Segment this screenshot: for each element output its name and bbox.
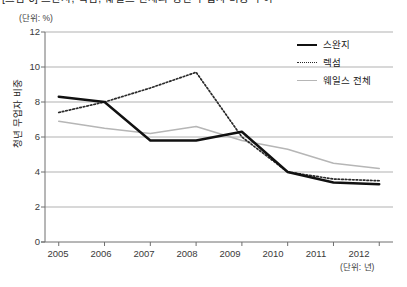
y-tick-6: 6 — [14, 132, 40, 142]
figure-root: [그림 3] 스완지, 렉섬, 웨일스 전체의 청년 무업자 비중 추이 (단위… — [0, 0, 407, 287]
x-tick-2006: 2006 — [81, 249, 121, 259]
x-tick-2010: 2010 — [253, 249, 293, 259]
x-tick-2011: 2011 — [296, 249, 336, 259]
legend-line-icon-swansea — [297, 39, 317, 49]
y-axis-title: 청년 무업자 비중 — [12, 68, 23, 160]
x-tick-2008: 2008 — [167, 249, 207, 259]
x-tick-2007: 2007 — [124, 249, 164, 259]
y-tick-10: 10 — [14, 62, 40, 72]
y-tick-0: 0 — [14, 237, 40, 247]
y-unit-label: (단위: %) — [19, 13, 53, 23]
figure-caption-text: [그림 3] 스완지, 렉섬, 웨일스 전체의 청년 무업자 비중 추이 — [0, 0, 407, 4]
figure-caption-clipped: [그림 3] 스완지, 렉섬, 웨일스 전체의 청년 무업자 비중 추이 — [0, 0, 407, 4]
legend-line-icon-wales — [297, 75, 317, 85]
series-line-2 — [59, 121, 380, 168]
x-tick-2009: 2009 — [210, 249, 250, 259]
x-unit-label: (단위: 년) — [340, 262, 374, 272]
x-tick-2012: 2012 — [339, 249, 379, 259]
series-line-0 — [59, 97, 380, 185]
legend-line-icon-wrexham — [297, 57, 317, 67]
legend-item-wales[interactable]: 웨일스 전체 — [297, 72, 401, 88]
legend-item-swansea[interactable]: 스완지 — [297, 36, 401, 52]
legend-label-wales: 웨일스 전체 — [323, 75, 371, 86]
legend-label-swansea: 스완지 — [323, 39, 350, 50]
legend: 스완지 렉섬 웨일스 전체 — [297, 36, 401, 90]
x-tick-2005: 2005 — [38, 249, 78, 259]
legend-item-wrexham[interactable]: 렉섬 — [297, 54, 401, 70]
y-tick-8: 8 — [14, 97, 40, 107]
legend-label-wrexham: 렉섬 — [323, 57, 341, 68]
y-tick-2: 2 — [14, 202, 40, 212]
y-tick-12: 12 — [14, 27, 40, 37]
y-tick-4: 4 — [14, 167, 40, 177]
